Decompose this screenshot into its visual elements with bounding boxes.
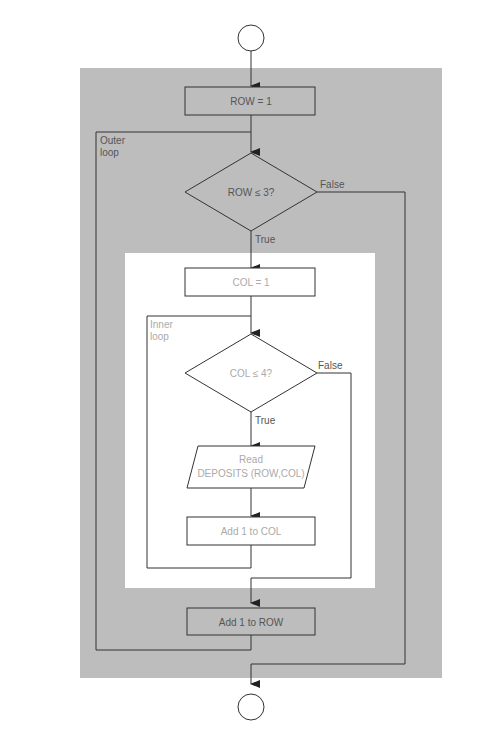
- row-init-text: ROW = 1: [230, 96, 272, 107]
- outer-true-label: True: [255, 234, 276, 245]
- inner-loop-label: Inner: [150, 319, 173, 330]
- read-io-box: [187, 446, 315, 488]
- add-col-text: Add 1 to COL: [221, 526, 282, 537]
- start-terminal: [238, 25, 264, 51]
- inner-true-label: True: [255, 415, 276, 426]
- read-text-1: Read: [239, 454, 263, 465]
- col-init-text: COL = 1: [232, 277, 270, 288]
- inner-condition-text: COL ≤ 4?: [230, 368, 273, 379]
- inner-loop-label-2: loop: [150, 331, 169, 342]
- inner-false-label: False: [318, 360, 343, 371]
- outer-loop-label-2: loop: [100, 147, 119, 158]
- end-terminal: [238, 694, 264, 720]
- add-row-text: Add 1 to ROW: [219, 617, 284, 628]
- outer-condition-text: ROW ≤ 3?: [228, 187, 275, 198]
- read-text-2: DEPOSITS (ROW,COL): [197, 468, 304, 479]
- outer-loop-label: Outer: [100, 135, 126, 146]
- flowchart: ROW = 1 Outer loop ROW ≤ 3? False True C…: [0, 0, 496, 735]
- outer-false-label: False: [320, 179, 345, 190]
